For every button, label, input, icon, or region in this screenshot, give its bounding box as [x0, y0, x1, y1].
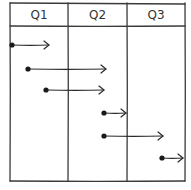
grid-top-border: [10, 3, 185, 4]
task-arrow: [9, 41, 49, 49]
task-arrows: [9, 41, 183, 162]
task-arrow: [101, 109, 126, 117]
table-grid: [10, 3, 185, 181]
task-arrow: [159, 154, 183, 162]
task-arrow: [25, 65, 106, 73]
column-header-q3: Q3: [127, 6, 185, 24]
start-dot-icon: [9, 42, 14, 47]
column-header-q1: Q1: [10, 6, 68, 24]
column-header-q2: Q2: [68, 6, 127, 24]
start-dot-icon: [159, 155, 164, 160]
task-arrow: [43, 86, 104, 94]
start-dot-icon: [25, 66, 30, 71]
start-dot-icon: [101, 133, 106, 138]
timeline-diagram: [0, 0, 191, 190]
start-dot-icon: [101, 110, 106, 115]
start-dot-icon: [43, 87, 48, 92]
task-arrow: [101, 132, 163, 140]
